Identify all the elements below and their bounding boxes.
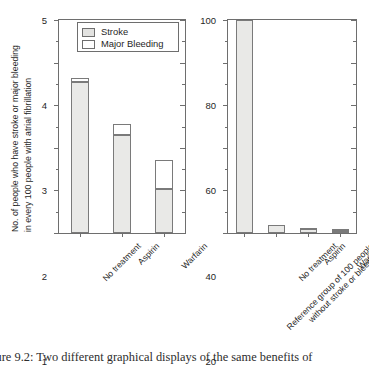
y-axis-tick-right [180, 20, 185, 21]
y-axis-minor-tick-right [353, 212, 356, 213]
y-axis-minor-tick [56, 127, 59, 128]
left-y-axis-title-line1: No. of people who have stroke or major b… [10, 45, 21, 232]
y-axis-tick: 60 [223, 105, 228, 106]
x-axis-tick [80, 233, 81, 237]
y-axis-minor-tick-right [182, 127, 185, 128]
bar-segment-stroke [113, 135, 131, 233]
y-axis-tick: 5 [54, 20, 59, 21]
x-axis-tick [122, 233, 123, 237]
y-axis-tick-right [351, 148, 356, 149]
bar-segment-major-bleeding [155, 160, 173, 189]
y-axis-minor-tick-right [353, 84, 356, 85]
x-axis-tick [164, 233, 165, 237]
y-axis-tick: 0 [54, 233, 59, 234]
y-axis-tick-right [180, 148, 185, 149]
y-axis-tick: 2 [54, 148, 59, 149]
figure-9-2: No. of people who have stroke or major b… [0, 0, 369, 373]
y-axis-minor-tick-right [353, 127, 356, 128]
legend-item-major-bleeding: Major Bleeding [82, 38, 172, 50]
y-axis-minor-tick-right [182, 41, 185, 42]
y-axis-tick: 0 [223, 233, 228, 234]
y-axis-minor-tick [225, 84, 228, 85]
y-axis-tick-right [180, 105, 185, 106]
left-y-axis-title: No. of people who have stroke or major b… [10, 45, 21, 232]
y-axis-tick-right [351, 190, 356, 191]
y-axis-tick-label: 5 [42, 16, 47, 26]
legend-label-stroke: Stroke [101, 27, 128, 36]
x-axis-tick [276, 233, 277, 237]
y-axis-minor-tick-right [353, 169, 356, 170]
right-plot-area: 020406080100Reference group of 100 peopl… [227, 19, 357, 234]
stroke-swatch-icon [82, 28, 95, 37]
x-axis-tick [244, 233, 245, 237]
bar-segment-stroke [268, 225, 285, 233]
legend: Stroke Major Bleeding [77, 22, 179, 52]
bar-segment-stroke [155, 189, 173, 233]
y-axis-minor-tick [56, 169, 59, 170]
left-y-axis-title-second: in every 100 people with atrial fibrilla… [23, 78, 34, 232]
y-axis-tick-right [351, 63, 356, 64]
left-panel: No. of people who have stroke or major b… [0, 0, 195, 340]
y-axis-tick-label: 80 [205, 101, 216, 111]
x-axis-tick [308, 233, 309, 237]
figure-caption: Figure 9.2: Two different graphical disp… [0, 350, 369, 365]
x-axis-category-label-line: Aspirin [322, 241, 348, 267]
y-axis-tick-right [351, 105, 356, 106]
bar-segment-stroke [236, 20, 253, 233]
y-axis-minor-tick-right [182, 212, 185, 213]
x-axis-tick [340, 233, 341, 237]
y-axis-tick-label: 3 [42, 187, 47, 197]
y-axis-minor-tick [225, 127, 228, 128]
y-axis-tick-label: 4 [42, 101, 47, 111]
bar-segment-stroke [71, 82, 89, 233]
y-axis-minor-tick-right [182, 169, 185, 170]
legend-item-stroke: Stroke [82, 26, 172, 38]
y-axis-tick-label: 2 [42, 272, 47, 282]
y-axis-tick: 100 [223, 20, 228, 21]
x-axis-category-label: No treatment [101, 241, 143, 283]
y-axis-minor-tick [56, 84, 59, 85]
y-axis-minor-tick [56, 212, 59, 213]
bar-segment-major-bleeding [332, 229, 349, 231]
y-axis-tick-label: 40 [205, 272, 216, 282]
y-axis-tick-right [180, 63, 185, 64]
y-axis-tick-right [180, 190, 185, 191]
y-axis-tick-right [351, 20, 356, 21]
left-y-axis-title-line2: in every 100 people with atrial fibrilla… [23, 78, 34, 232]
y-axis-minor-tick [225, 212, 228, 213]
y-axis-tick-right [180, 233, 185, 234]
y-axis-tick-label: 100 [200, 16, 216, 26]
right-panel: 020406080100Reference group of 100 peopl… [195, 0, 369, 340]
y-axis-tick-right [351, 233, 356, 234]
x-axis-category-label-line: No treatment [101, 241, 143, 283]
y-axis-tick: 80 [223, 63, 228, 64]
y-axis-tick: 40 [223, 148, 228, 149]
y-axis-tick: 3 [54, 105, 59, 106]
bar-segment-major-bleeding [113, 124, 131, 135]
y-axis-minor-tick-right [353, 41, 356, 42]
y-axis-minor-tick [225, 41, 228, 42]
x-axis-category-label: Aspirin [322, 241, 348, 267]
y-axis-tick: 4 [54, 63, 59, 64]
y-axis-tick: 20 [223, 190, 228, 191]
y-axis-minor-tick [56, 41, 59, 42]
y-axis-tick-label: 60 [205, 187, 216, 197]
y-axis-minor-tick [225, 169, 228, 170]
bar-segment-major-bleeding [300, 228, 317, 230]
major-bleeding-swatch-icon [82, 40, 95, 49]
y-axis-tick: 1 [54, 190, 59, 191]
legend-label-major-bleeding: Major Bleeding [101, 39, 164, 48]
y-axis-minor-tick-right [182, 84, 185, 85]
bar-segment-major-bleeding [71, 78, 89, 81]
